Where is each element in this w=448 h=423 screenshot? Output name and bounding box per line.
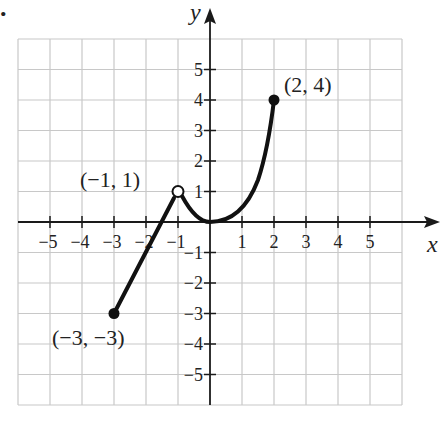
x-tick-label: 3: [302, 232, 311, 252]
y-tick-label: −1: [184, 243, 203, 263]
linear-segment: [114, 198, 174, 314]
y-tick-label: −2: [184, 273, 203, 293]
graph-figure: .: [0, 0, 448, 423]
x-tick-label: 4: [334, 232, 343, 252]
x-tick-label: 5: [366, 232, 375, 252]
x-tick-label: −3: [102, 232, 121, 252]
closed-endpoint-marker-bottom: [109, 308, 120, 319]
open-point-label: (−1, 1): [80, 167, 140, 192]
x-tick-labels: −5 −4 −3 −2 −1 1 2 3 4 5: [38, 232, 374, 252]
y-tick-label: 1: [194, 182, 203, 202]
x-tick-label: −4: [70, 232, 89, 252]
x-tick-label: 1: [238, 232, 247, 252]
open-endpoint-marker: [173, 186, 184, 197]
closed-endpoint-marker-top: [269, 95, 280, 106]
y-tick-label: −3: [184, 304, 203, 324]
y-tick-label: 2: [194, 151, 203, 171]
x-tick-label: 2: [270, 232, 279, 252]
y-tick-label: 3: [194, 121, 203, 141]
bottom-point-label: (−3, −3): [52, 325, 124, 350]
x-tick-label: −5: [38, 232, 57, 252]
x-axis-label: x: [426, 231, 438, 257]
problem-marker: .: [0, 0, 7, 22]
y-tick-label: 5: [194, 60, 203, 80]
top-point-label: (2, 4): [284, 72, 332, 97]
y-tick-label: −4: [184, 334, 203, 354]
y-tick-label: −5: [184, 365, 203, 385]
y-axis-label: y: [188, 0, 201, 25]
y-axis: [204, 8, 216, 405]
x-tick-label: −1: [166, 232, 185, 252]
y-tick-label: 4: [194, 90, 203, 110]
